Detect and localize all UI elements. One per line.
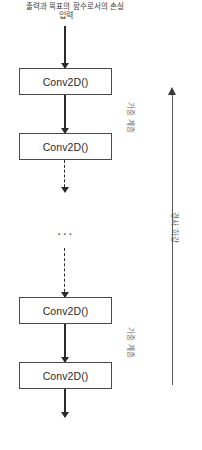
- arrow-ellipsis-to-conv3: [64, 248, 65, 297]
- arrow-input-to-conv1: [64, 26, 66, 68]
- backprop-arrowhead-icon: [168, 87, 176, 95]
- conv2d-block-1[interactable]: Conv2D(): [19, 68, 112, 95]
- weight-layer-label-bottom: 가중 계층: [126, 320, 137, 366]
- conv2d-block-3-label: Conv2D(): [43, 305, 89, 317]
- weight-layer-label-top: 가중 계층: [126, 95, 137, 141]
- conv2d-block-2[interactable]: Conv2D(): [19, 133, 112, 160]
- loss-caption: 출력과 목표의 함수로서의 손실: [0, 0, 150, 11]
- backprop-label: 경사 하강: [170, 205, 181, 251]
- ellipsis-label: ...: [0, 222, 131, 237]
- conv2d-block-2-label: Conv2D(): [43, 141, 89, 153]
- diagram-canvas: 입력 Conv2D() Conv2D() ... Conv2D() Conv2D…: [0, 0, 202, 450]
- arrowhead-icon: [61, 412, 69, 418]
- conv2d-block-1-label: Conv2D(): [43, 76, 89, 88]
- conv2d-block-4-label: Conv2D(): [43, 370, 89, 382]
- conv2d-block-3[interactable]: Conv2D(): [19, 297, 112, 324]
- input-label: 입력: [0, 12, 131, 20]
- arrow-conv1-to-conv2: [64, 95, 66, 133]
- arrowhead-icon: [61, 187, 69, 193]
- arrow-conv4-to-loss: [64, 389, 66, 417]
- conv2d-block-4[interactable]: Conv2D(): [19, 362, 112, 389]
- arrow-conv2-to-ellipsis: [64, 160, 65, 192]
- arrow-conv3-to-conv4: [64, 324, 66, 362]
